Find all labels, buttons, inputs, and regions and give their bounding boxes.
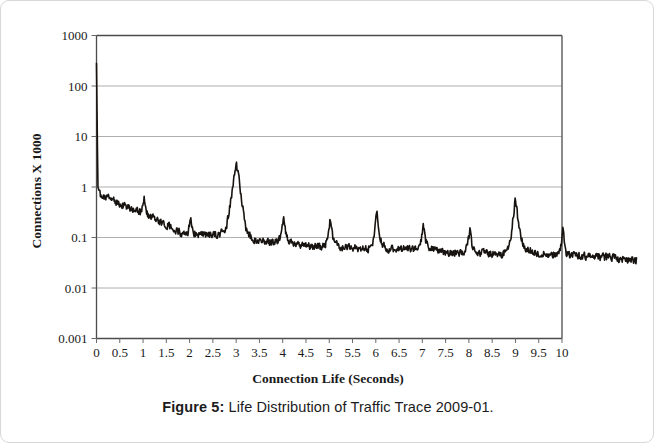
x-tick-label: 9.5 xyxy=(531,345,547,360)
x-tick-label: 8 xyxy=(466,345,473,360)
x-tick-label: 10 xyxy=(556,345,569,360)
y-tick-label: 100 xyxy=(68,79,88,94)
y-tick-label: 0.001 xyxy=(58,331,87,346)
x-tick-label: 2 xyxy=(186,345,193,360)
figure-caption-text: Life Distribution of Traffic Trace 2009-… xyxy=(224,399,493,415)
x-tick-label: 4.5 xyxy=(298,345,314,360)
x-tick-label: 0.5 xyxy=(112,345,128,360)
x-tick-label: 5.5 xyxy=(344,345,360,360)
x-tick-label: 0 xyxy=(93,345,100,360)
y-axis-ticks xyxy=(92,36,97,339)
data-series-line xyxy=(97,63,637,263)
data-series-group xyxy=(97,63,637,263)
y-tick-label: 10 xyxy=(75,129,88,144)
x-tick-label: 7.5 xyxy=(438,345,454,360)
y-tick-label: 0.01 xyxy=(65,281,88,296)
life-distribution-chart: 00.511.522.533.544.555.566.577.588.599.5… xyxy=(1,1,654,397)
x-tick-label: 6 xyxy=(373,345,380,360)
x-tick-label: 1 xyxy=(140,345,147,360)
x-tick-label: 9 xyxy=(512,345,519,360)
x-tick-label: 3.5 xyxy=(251,345,267,360)
y-tick-label: 1 xyxy=(81,180,88,195)
x-tick-label: 1.5 xyxy=(158,345,174,360)
x-tick-label: 7 xyxy=(419,345,426,360)
y-axis-title: Connections X 1000 xyxy=(29,133,44,248)
x-axis-title: Connection Life (Seconds) xyxy=(252,371,404,386)
chart-figure: 00.511.522.533.544.555.566.577.588.599.5… xyxy=(1,1,654,397)
x-tick-label: 2.5 xyxy=(205,345,221,360)
figure-page: 00.511.522.533.544.555.566.577.588.599.5… xyxy=(0,0,654,443)
x-tick-label: 4 xyxy=(279,345,286,360)
x-tick-label: 8.5 xyxy=(484,345,500,360)
x-tick-label: 3 xyxy=(233,345,240,360)
x-axis-tick-labels: 00.511.522.533.544.555.566.577.588.599.5… xyxy=(93,345,568,360)
x-axis-ticks xyxy=(97,339,563,344)
x-tick-label: 6.5 xyxy=(391,345,407,360)
x-tick-label: 5 xyxy=(326,345,333,360)
y-tick-label: 1000 xyxy=(62,28,88,43)
figure-caption: Figure 5: Life Distribution of Traffic T… xyxy=(1,399,654,415)
y-tick-label: 0.1 xyxy=(71,230,87,245)
y-axis-tick-labels: 10001001010.10.010.001 xyxy=(58,28,87,346)
figure-number: Figure 5: xyxy=(162,399,224,415)
